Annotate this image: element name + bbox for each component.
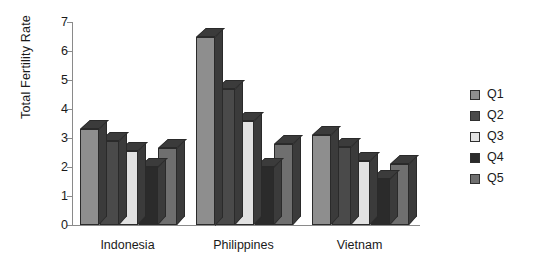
x-category-label: Indonesia [63,238,193,252]
bar-group [312,22,428,225]
y-tick-label: 6 [28,45,68,58]
bar [80,129,99,225]
bar [312,135,331,225]
bar-side-face [235,80,243,225]
plot-area: 01234567 [72,22,420,226]
legend-label: Q4 [487,151,504,164]
legend-swatch-icon [470,132,480,142]
y-tick-label: 4 [28,103,68,116]
x-category-label: Vietnam [295,238,425,252]
legend-label: Q5 [487,172,504,185]
bar-front-face [80,129,99,225]
bar-side-face [138,142,146,225]
y-tick-label: 7 [28,16,68,29]
y-tick-label: 3 [28,132,68,145]
legend-item[interactable]: Q3 [470,126,504,147]
bar-side-face [370,152,378,225]
bar-side-face [119,132,127,225]
bar-side-face [254,112,262,225]
bar-group [80,22,196,225]
bar-front-face [196,37,215,226]
legend-swatch-icon [470,90,480,100]
y-tick-label: 5 [28,74,68,87]
legend-swatch-icon [470,174,480,184]
y-tick-label: 0 [28,219,68,232]
bar-groups [72,22,420,226]
bar-side-face [99,120,107,225]
legend-label: Q2 [487,109,504,122]
legend-swatch-icon [470,111,480,121]
legend-item[interactable]: Q2 [470,105,504,126]
y-tick-label: 2 [28,161,68,174]
legend: Q1Q2Q3Q4Q5 [470,84,504,189]
bar-side-face [293,135,301,225]
bar [196,37,215,226]
legend-swatch-icon [470,153,480,163]
bar-side-face [215,28,223,225]
bar-side-face [177,139,185,225]
bar-side-face [331,126,339,225]
legend-label: Q1 [487,88,504,101]
bar-front-face [312,135,331,225]
fertility-rate-bar-chart: Total Fertility Rate 01234567 IndonesiaP… [0,0,538,273]
bar-side-face [158,158,166,225]
y-tick-label: 1 [28,190,68,203]
bar-side-face [274,158,282,225]
legend-label: Q3 [487,130,504,143]
legend-item[interactable]: Q5 [470,168,504,189]
legend-item[interactable]: Q1 [470,84,504,105]
bar-group [196,22,312,225]
bar-side-face [351,138,359,225]
bar-side-face [409,155,417,225]
x-category-label: Philippines [179,238,309,252]
legend-item[interactable]: Q4 [470,147,504,168]
